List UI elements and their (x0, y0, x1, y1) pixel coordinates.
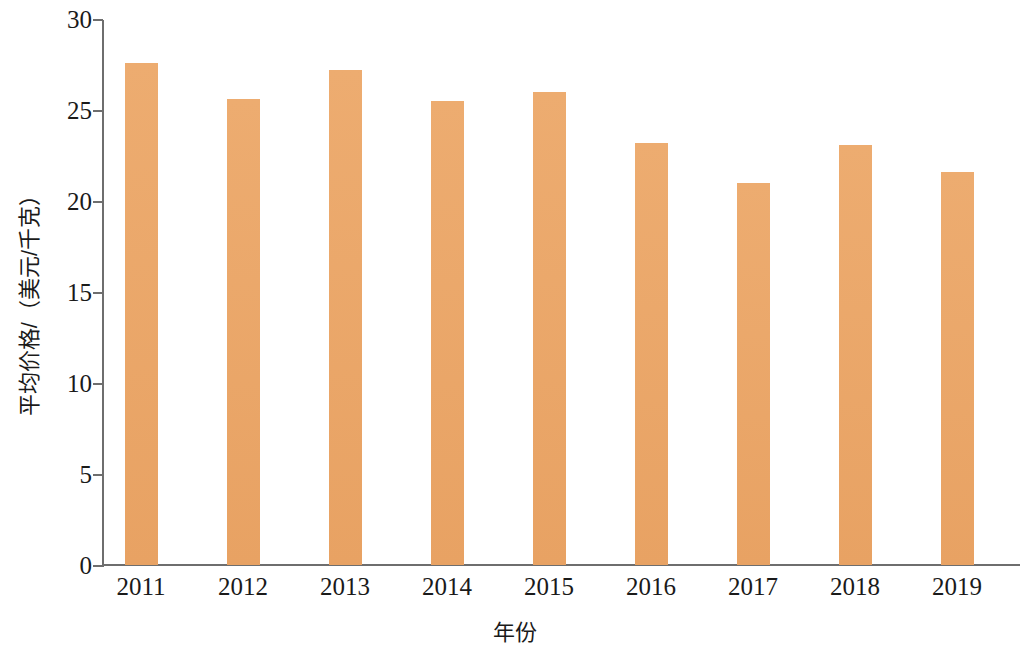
y-axis-tick-label: 10 (40, 371, 92, 396)
x-axis-title: 年份 (0, 614, 1030, 646)
bar (329, 70, 362, 565)
x-axis-tick-label: 2015 (494, 574, 604, 599)
y-axis-tick-label-group: 051015202530 (30, 0, 92, 649)
bar (431, 101, 464, 565)
y-axis-tick-mark (93, 565, 103, 567)
plot-area (102, 20, 1020, 566)
x-axis-tick-label: 2013 (290, 574, 400, 599)
x-axis-tick-label: 2011 (86, 574, 196, 599)
y-axis-tick-label: 25 (40, 98, 92, 123)
x-axis-tick-label: 2018 (800, 574, 910, 599)
y-axis-tick-mark (93, 19, 103, 21)
y-axis-tick-label: 0 (40, 553, 92, 578)
y-axis-tick-mark (93, 292, 103, 294)
x-axis-tick-label: 2012 (188, 574, 298, 599)
y-axis-tick-mark (93, 110, 103, 112)
y-axis-tick-label: 5 (40, 462, 92, 487)
bar (125, 63, 158, 565)
y-axis-tick-label: 20 (40, 189, 92, 214)
x-axis-tick-label: 2014 (392, 574, 502, 599)
bar (227, 99, 260, 565)
bar (635, 143, 668, 565)
bar (737, 183, 770, 565)
y-axis-tick-mark (93, 383, 103, 385)
y-axis-tick-label: 30 (40, 7, 92, 32)
bar (941, 172, 974, 565)
y-axis-tick-mark (93, 201, 103, 203)
bar (839, 145, 872, 565)
x-axis-tick-label: 2017 (698, 574, 808, 599)
x-axis-tick-label: 2019 (902, 574, 1012, 599)
bar (533, 92, 566, 565)
bar-chart-figure: 平均价格/（美元/千克） 051015202530 20112012201320… (0, 0, 1030, 649)
y-axis-tick-label: 15 (40, 280, 92, 305)
x-axis-tick-label: 2016 (596, 574, 706, 599)
y-axis-tick-mark (93, 474, 103, 476)
